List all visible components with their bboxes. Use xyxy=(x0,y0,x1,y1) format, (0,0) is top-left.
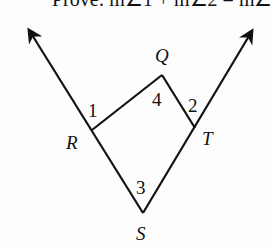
angle-label-1: 1 xyxy=(88,100,98,121)
angle-label-4: 4 xyxy=(152,89,162,110)
angle-label-3: 3 xyxy=(136,177,146,198)
angle-label-2: 2 xyxy=(188,95,198,116)
geometry-figure: Prove: m∠1 + m∠2 = m∠3 Q R T S 1 2 3 4 xyxy=(0,0,273,250)
point-label-q: Q xyxy=(155,45,169,66)
point-label-r: R xyxy=(65,132,78,153)
ray-s-r xyxy=(29,30,143,213)
point-label-t: T xyxy=(202,128,214,149)
point-label-s: S xyxy=(136,223,146,244)
diagram-svg: Q R T S 1 2 3 4 xyxy=(0,0,273,250)
